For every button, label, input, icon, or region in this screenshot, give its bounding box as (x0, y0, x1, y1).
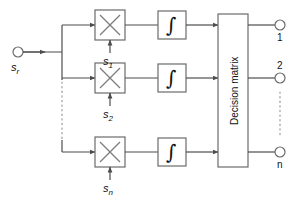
output-1-node-circle (275, 20, 285, 30)
branch-1-reference-label: s1 (103, 52, 113, 68)
output-2-label: 2 (277, 61, 283, 71)
input-signal-base: s (11, 61, 17, 73)
branch-3-reference-base: s (103, 182, 109, 194)
branch-3-reference-subscript: n (109, 188, 113, 197)
input-signal-label: sr (11, 58, 19, 74)
decision-matrix-label: Decision matrix (229, 57, 240, 125)
output-1-label: 1 (277, 33, 283, 43)
integrator-3-symbol: ∫ (166, 142, 176, 162)
integrator-2-symbol: ∫ (166, 68, 176, 88)
integrator-1-symbol: ∫ (166, 15, 176, 35)
branch-2-reference-base: s (103, 108, 109, 120)
branch-2-reference-subscript: 2 (109, 114, 113, 123)
output-2-node-circle (275, 73, 285, 83)
input-node-circle (13, 47, 23, 57)
input-signal-subscript: r (17, 67, 20, 76)
diagram-canvas (0, 0, 295, 200)
output-n-node-circle (275, 147, 285, 157)
branch-2-reference-label: s2 (103, 105, 113, 121)
block-diagram: sr × × × ∫ ∫ ∫ s1 s2 sn Decision matrix … (0, 0, 295, 200)
output-n-label: n (277, 160, 283, 170)
branch-3-reference-label: sn (103, 179, 113, 195)
branch-1-reference-base: s (103, 55, 109, 67)
branch-1-reference-subscript: 1 (109, 61, 113, 70)
